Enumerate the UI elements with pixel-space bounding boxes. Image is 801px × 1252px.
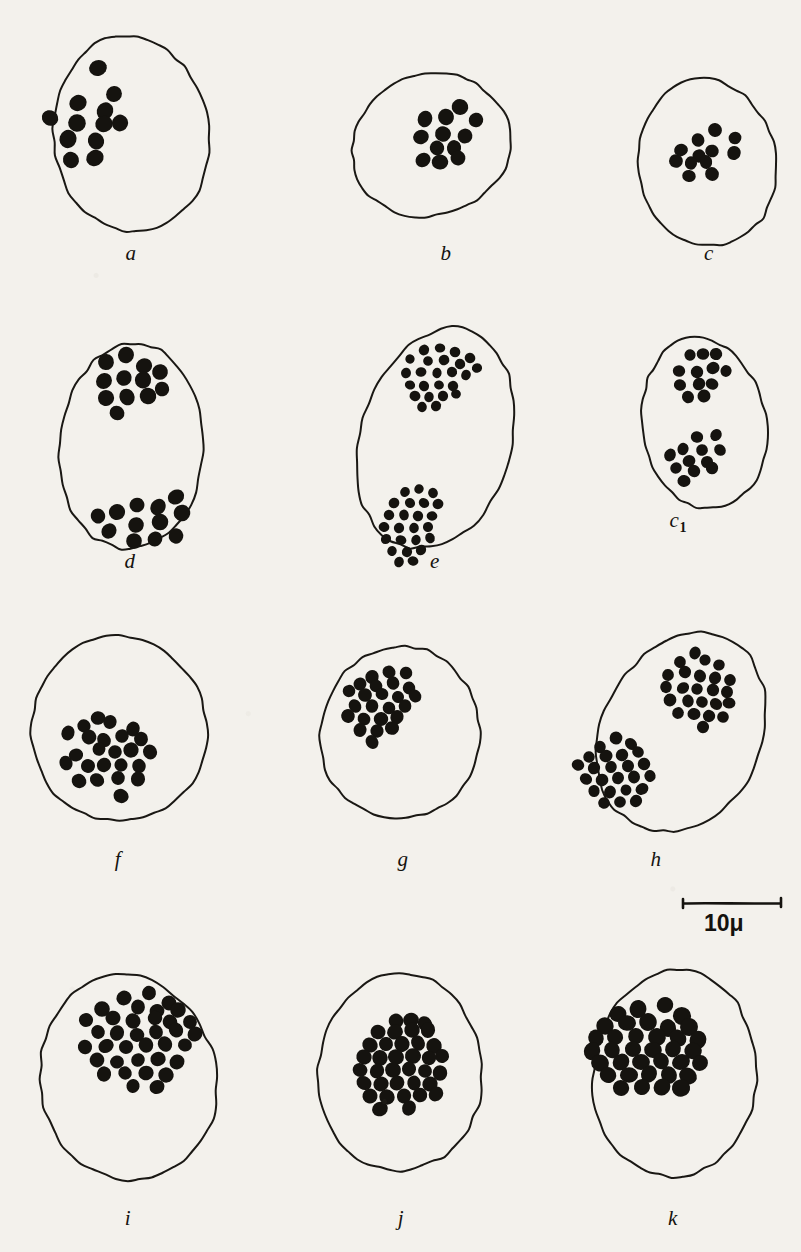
chromosome-group-h-1: [660, 645, 737, 733]
chromosome-group-k-1: [581, 994, 711, 1099]
chromosome-dot: [670, 705, 686, 722]
nucleus-panel-k: [581, 969, 757, 1178]
nucleus-panel-f: [30, 635, 208, 821]
chromosome-dot: [697, 389, 712, 403]
chromosome-dot: [698, 653, 711, 666]
chromosome-dot: [411, 128, 431, 146]
chromosome-dot: [708, 427, 724, 444]
chromosome-dot: [69, 771, 89, 791]
chromosome-dot: [398, 485, 412, 499]
chromosome-dot: [415, 367, 427, 377]
chromosome-dot: [707, 696, 724, 713]
chromosome-dot: [68, 114, 87, 132]
chromosome-dot: [471, 362, 483, 374]
chromosome-dot: [594, 772, 610, 787]
chromosome-dot: [709, 347, 724, 362]
chromosome-group-h-2: [570, 731, 656, 811]
chromosome-dot: [423, 391, 435, 404]
chromosome-dot: [705, 360, 722, 376]
chromosome-dot: [59, 724, 76, 742]
chromosome-dot: [114, 988, 134, 1008]
chromosome-dot: [447, 344, 462, 359]
chromosome-dot: [170, 501, 193, 524]
chromosome-group-a-1: [39, 58, 131, 172]
chromosome-group-c1-2: [662, 427, 728, 488]
chromosome-dot: [152, 513, 169, 530]
chromosome-dot: [706, 682, 721, 697]
chromosome-dot: [662, 669, 675, 682]
chromosome-dot: [89, 1022, 108, 1041]
chromosome-dot: [704, 377, 720, 392]
chromosome-dot: [111, 771, 125, 785]
chromosome-dot: [413, 150, 434, 170]
chromosome-dot: [412, 482, 425, 495]
chromosome-dot: [451, 98, 470, 116]
chromosome-dot: [431, 154, 449, 171]
chromosome-dot: [723, 673, 737, 687]
chromosome-dot: [433, 380, 444, 391]
chromosome-dot: [382, 508, 396, 522]
chromosome-dot: [628, 770, 641, 783]
nucleus-panel-a: [39, 36, 210, 232]
chromosome-dot: [416, 109, 435, 129]
nucleus-panel-d: [58, 344, 203, 552]
panel-caption-c1: c1: [648, 508, 708, 536]
chromosome-dot: [409, 523, 419, 534]
chromosome-group-i-1: [77, 985, 205, 1097]
chromosome-dot: [688, 363, 705, 380]
chromosome-dot: [431, 497, 445, 510]
nucleus-panel-g: [319, 646, 481, 819]
chromosome-dot: [94, 755, 114, 775]
panel-caption-g: g: [373, 847, 433, 872]
chromosome-dot: [692, 668, 708, 684]
chromosome-dot: [682, 169, 697, 182]
chromosome-dot: [437, 353, 451, 367]
chromosome-dot: [109, 112, 130, 133]
chromosome-dot: [696, 348, 709, 360]
panel-caption-h: h: [626, 847, 686, 872]
chromosome-dot: [725, 144, 744, 163]
chromosome-group-d-1: [93, 344, 171, 423]
chromosome-group-c-1: [667, 120, 744, 184]
chromosome-dot: [107, 403, 128, 424]
chromosome-dot: [399, 666, 413, 680]
chromosome-dot: [398, 509, 409, 521]
chromosome-dot: [98, 520, 119, 542]
chromosome-dot: [437, 108, 455, 127]
chromosome-dot: [673, 378, 688, 392]
chromosome-dot: [438, 390, 449, 401]
chromosome-dot: [400, 367, 412, 379]
chromosome-dot: [404, 353, 415, 364]
chromosome-dot: [689, 681, 705, 697]
chromosome-dot: [417, 496, 432, 510]
chromosome-dot: [675, 680, 692, 696]
chromosome-dot: [114, 757, 129, 772]
chromosome-dot: [676, 442, 690, 457]
chromosome-dot: [103, 83, 125, 105]
chromosome-group-b-1: [411, 98, 486, 170]
chromosome-dot: [417, 379, 430, 393]
chromosome-dot: [125, 514, 147, 536]
chromosome-dot: [117, 386, 138, 408]
chromosome-dot: [681, 693, 695, 708]
chromosome-dot: [687, 707, 701, 720]
chromosome-dot: [111, 786, 131, 805]
chromosome-dot: [67, 92, 90, 114]
chromosome-dot: [386, 545, 398, 558]
chromosome-dot: [141, 985, 157, 1001]
chromosome-dot: [108, 1023, 126, 1042]
chromosome-dot: [637, 757, 651, 771]
chromosome-dot: [394, 534, 408, 547]
nucleus-panel-c1: [641, 337, 768, 508]
chromosome-dot: [588, 784, 600, 797]
chromosome-dot: [78, 1012, 95, 1028]
chromosome-group-e-1: [400, 343, 483, 413]
chromosome-dot: [668, 460, 684, 476]
chromosome-dot: [108, 745, 122, 759]
scale-bar-label: 10μ: [704, 910, 744, 937]
chromosome-dot: [378, 521, 390, 533]
chromosome-dot: [427, 511, 438, 521]
nuclear-membrane-c1: [641, 337, 768, 508]
chromosome-dot: [96, 388, 117, 409]
chromosome-dot: [60, 149, 82, 172]
